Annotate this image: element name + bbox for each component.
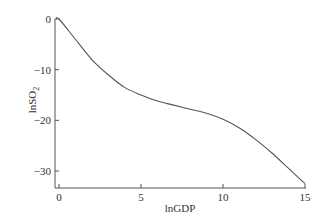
- y-tick-label: 0: [46, 13, 52, 25]
- x-tick-label: 0: [56, 191, 62, 203]
- data-line: [56, 17, 305, 183]
- x-axis-label: lnGDP: [165, 202, 196, 214]
- axes: 0510150−10−20−30: [34, 13, 311, 203]
- x-tick-label: 5: [138, 191, 144, 203]
- x-tick-label: 15: [300, 191, 312, 203]
- y-axis-label: lnSO2: [26, 87, 41, 114]
- chart: 0510150−10−20−30 lnGDP lnSO2: [0, 0, 328, 224]
- y-tick-label: −30: [34, 165, 52, 177]
- x-tick-label: 10: [218, 191, 230, 203]
- y-tick-label: −20: [34, 114, 52, 126]
- y-tick-label: −10: [34, 64, 52, 76]
